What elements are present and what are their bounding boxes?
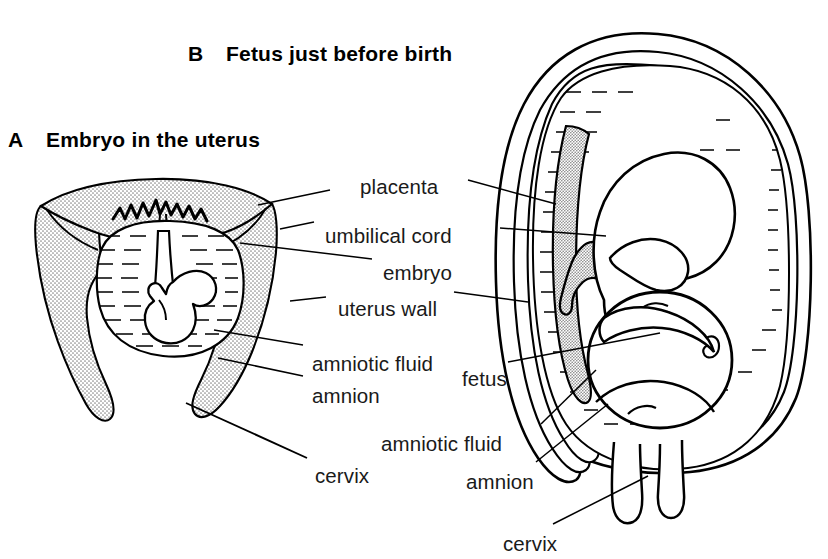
label-umbilical-cord: umbilical cord [325, 224, 452, 248]
cervix-canal-b [612, 442, 642, 523]
cervix-canal-b-right [658, 440, 684, 518]
label-amnion-a: amnion [312, 384, 380, 408]
label-uterus-wall: uterus wall [338, 297, 437, 321]
figure-canvas: BFetus just before birth AEmbryo in the … [0, 0, 828, 559]
label-fetus: fetus [462, 367, 507, 391]
leader-cervix-a [186, 403, 307, 458]
label-amnion-b: amnion [466, 470, 534, 494]
label-cervix-b: cervix [503, 532, 557, 556]
panel-a-diagram [35, 179, 277, 421]
label-cervix-a: cervix [315, 464, 369, 488]
leader-uterus-wall-left [290, 297, 326, 301]
label-amniotic-fluid-a: amniotic fluid [312, 352, 433, 376]
leader-umbilical-left [280, 222, 314, 229]
label-embryo: embryo [383, 261, 452, 285]
label-amniotic-fluid-b: amniotic fluid [381, 432, 502, 456]
panel-b-diagram [496, 33, 811, 523]
leader-placenta-left [258, 190, 330, 205]
label-placenta: placenta [360, 175, 438, 199]
